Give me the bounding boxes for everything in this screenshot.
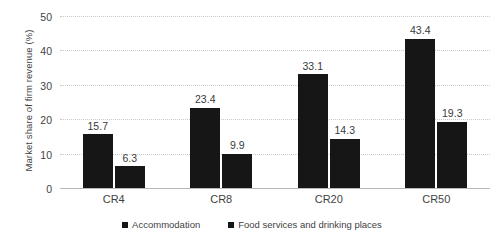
plot-area: 01020304050 15.76.323.49.933.114.343.419… bbox=[60, 16, 490, 188]
bar-group: 33.114.3 bbox=[275, 16, 383, 188]
legend-label: Accommodation bbox=[132, 219, 200, 230]
bar-slot: 23.4 bbox=[190, 16, 220, 188]
y-axis-tick-label: 40 bbox=[16, 46, 52, 57]
gridline bbox=[60, 188, 490, 189]
bar-value-label: 14.3 bbox=[322, 125, 368, 136]
bar-slot: 43.4 bbox=[405, 16, 435, 188]
bar-value-label: 19.3 bbox=[429, 108, 475, 119]
bar-chart: Market share of firm revenue (%) 0102030… bbox=[0, 0, 504, 243]
x-axis-labels: CR4CR8CR20CR50 bbox=[60, 193, 490, 205]
bar[interactable] bbox=[115, 166, 145, 188]
bar-group: 15.76.3 bbox=[60, 16, 168, 188]
legend-swatch-icon bbox=[122, 222, 128, 228]
legend-swatch-icon bbox=[228, 222, 234, 228]
bar-group: 43.419.3 bbox=[383, 16, 491, 188]
legend-label: Food services and drinking places bbox=[238, 219, 382, 230]
bar-slot: 14.3 bbox=[330, 16, 360, 188]
bar-value-label: 6.3 bbox=[107, 153, 153, 164]
y-axis-tick-label: 0 bbox=[16, 184, 52, 195]
legend-item[interactable]: Food services and drinking places bbox=[228, 219, 382, 230]
bar[interactable] bbox=[222, 154, 252, 188]
bar[interactable] bbox=[330, 139, 360, 188]
y-axis-tick-label: 20 bbox=[16, 115, 52, 126]
bar-value-label: 9.9 bbox=[214, 140, 260, 151]
y-axis-title: Market share of firm revenue (%) bbox=[23, 11, 34, 191]
legend-item[interactable]: Accommodation bbox=[122, 219, 200, 230]
x-axis-tick-label: CR20 bbox=[275, 193, 383, 205]
x-axis-tick-label: CR8 bbox=[168, 193, 276, 205]
x-axis-tick-label: CR50 bbox=[383, 193, 491, 205]
bar[interactable] bbox=[437, 122, 467, 188]
y-axis-tick-label: 50 bbox=[16, 12, 52, 23]
y-axis-tick-label: 30 bbox=[16, 81, 52, 92]
bar-slot: 33.1 bbox=[298, 16, 328, 188]
bar-groups: 15.76.323.49.933.114.343.419.3 bbox=[60, 16, 490, 188]
x-axis-tick-label: CR4 bbox=[60, 193, 168, 205]
y-axis-tick-label: 10 bbox=[16, 150, 52, 161]
chart-legend: AccommodationFood services and drinking … bbox=[0, 219, 504, 230]
bar-group: 23.49.9 bbox=[168, 16, 276, 188]
bar-slot: 9.9 bbox=[222, 16, 252, 188]
bar-slot: 6.3 bbox=[115, 16, 145, 188]
bar-slot: 19.3 bbox=[437, 16, 467, 188]
